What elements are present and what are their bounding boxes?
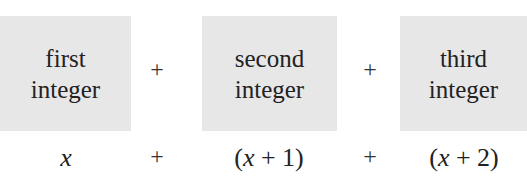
- plus-sign-top-2: +: [363, 56, 377, 83]
- expression-third: (x + 2): [429, 143, 499, 173]
- box-first-integer: first integer: [0, 16, 131, 131]
- box-label-line1: second: [235, 43, 304, 74]
- expression-first: x: [60, 143, 72, 173]
- box-third-integer: third integer: [400, 16, 527, 131]
- box-label-line1: third: [440, 43, 487, 74]
- box-second-integer: second integer: [202, 16, 337, 131]
- box-label-line2: integer: [235, 74, 304, 105]
- box-label-line2: integer: [31, 74, 100, 105]
- plus-sign-top-1: +: [150, 56, 164, 83]
- box-label-line1: first: [45, 43, 85, 74]
- plus-sign-bottom-2: +: [363, 143, 377, 170]
- expression-second: (x + 1): [234, 143, 304, 173]
- plus-sign-bottom-1: +: [150, 143, 164, 170]
- box-label-line2: integer: [429, 74, 498, 105]
